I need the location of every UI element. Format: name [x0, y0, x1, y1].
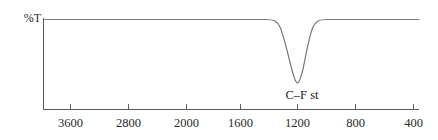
x-axis-ticks — [71, 104, 414, 110]
ir-spectrum-figure: %T 3600 2800 2000 1600 1200 800 400 C–F … — [0, 0, 438, 140]
tick-label-2000: 2000 — [174, 116, 199, 130]
tick-label-400: 400 — [404, 116, 423, 130]
tick-label-3600: 3600 — [58, 116, 83, 130]
tick-label-2800: 2800 — [116, 116, 141, 130]
c-f-stretch-label: C–F st — [285, 88, 319, 102]
y-axis-title: %T — [24, 11, 42, 25]
spectrum-plot-area: %T 3600 2800 2000 1600 1200 800 400 C–F … — [0, 0, 438, 140]
tick-label-800: 800 — [346, 116, 365, 130]
tick-label-1200: 1200 — [285, 116, 310, 130]
tick-label-1600: 1600 — [228, 116, 253, 130]
transmittance-curve — [44, 20, 419, 84]
